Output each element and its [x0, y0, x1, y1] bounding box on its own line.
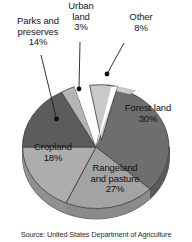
source-caption: Source: United States Department of Agri… — [0, 230, 192, 239]
slice-label-rangeland-pasture-value: 27% — [77, 184, 153, 195]
leader-dot-urban — [77, 87, 82, 92]
slice-label-urban-land-value: 3% — [57, 22, 105, 33]
slice-label-other-value: 8% — [117, 23, 165, 34]
pie-chart-figure: Parks and preserves 14% Urban land 3% Ot… — [0, 0, 192, 242]
slice-label-cropland-value: 18% — [22, 153, 84, 164]
slice-label-rangeland-pasture: Rangeland and pasture 27% — [77, 163, 153, 195]
leader-dot-other — [105, 72, 110, 77]
leader-line-other — [107, 43, 124, 74]
slice-label-urban-land: Urban land 3% — [57, 1, 105, 33]
slice-label-forest-land: Forest land 30% — [112, 103, 184, 124]
leader-dot-parks — [54, 117, 59, 122]
slice-label-other: Other 8% — [117, 12, 165, 33]
slice-label-parks-preserves-value: 14% — [2, 37, 74, 48]
leader-line-urban — [79, 42, 80, 89]
slice-label-cropland: Cropland 18% — [22, 142, 84, 163]
slice-label-forest-land-value: 30% — [112, 114, 184, 125]
